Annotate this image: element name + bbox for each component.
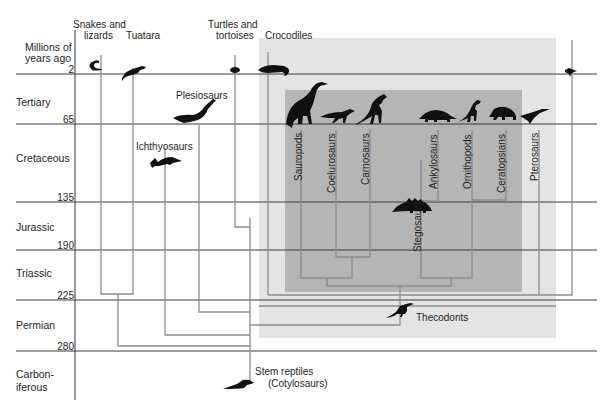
- tick-135: 135: [44, 192, 74, 203]
- bird-icon: [565, 68, 577, 77]
- axis-title-line2: years ago: [25, 53, 71, 64]
- turtle-icon: [230, 67, 240, 73]
- period-carboniferous-2: iferous: [16, 381, 48, 394]
- label-ornithopods: Ornithopods: [462, 135, 473, 189]
- period-jurassic: Jurassic: [16, 221, 55, 234]
- label-snakes-lizards-2: lizards: [84, 30, 113, 41]
- label-turtles-1: Turtles and: [208, 19, 258, 30]
- label-thecodonts: Thecodonts: [416, 312, 468, 323]
- label-ankylosaurs: Ankylosaurs: [428, 135, 439, 189]
- period-tertiary: Tertiary: [16, 96, 50, 109]
- label-coelurosaurs: Coelurosaurs: [326, 134, 337, 193]
- tick-2: 2: [44, 64, 74, 75]
- branch-lines: [101, 40, 572, 382]
- sauropod-icon: [286, 82, 328, 128]
- label-stem-reptiles-1: Stem reptiles: [255, 366, 313, 377]
- label-stegosaurs: Stegosaurs: [412, 201, 423, 252]
- label-carnosaurs: Carnosaurs: [360, 133, 371, 185]
- animal-silhouettes: [89, 60, 577, 389]
- ceratopsian-icon: [489, 107, 516, 120]
- label-ichthyosaurs: Ichthyosaurs: [136, 141, 193, 152]
- coelurosaur-icon: [320, 109, 355, 123]
- tick-65: 65: [44, 114, 74, 125]
- period-permian: Permian: [16, 319, 55, 332]
- plesiosaur-icon: [173, 99, 216, 123]
- snake-icon: [89, 60, 102, 70]
- ichthyosaur-icon: [150, 157, 182, 168]
- carnosaur-icon: [356, 94, 387, 125]
- tick-280: 280: [44, 341, 74, 352]
- ornithopod-icon: [458, 100, 481, 122]
- ankylosaur-icon: [419, 110, 457, 122]
- label-plesiosaurs: Plesiosaurs: [176, 90, 228, 101]
- label-crocodiles: Crocodiles: [265, 30, 312, 41]
- period-triassic: Triassic: [16, 267, 52, 280]
- stem-reptile-icon: [223, 380, 254, 389]
- period-cretaceous: Cretaceous: [16, 152, 70, 165]
- reptile-evolution-diagram: Millions of years ago 2 65 135 190 225 2…: [0, 0, 607, 407]
- tick-190: 190: [44, 240, 74, 251]
- label-pterosaurs: Pterosaurs: [529, 133, 540, 181]
- tree-lines: [0, 0, 607, 407]
- label-tuatara: Tuatara: [126, 30, 160, 41]
- label-stem-reptiles-2: (Cotylosaurs): [268, 378, 327, 389]
- label-sauropods: Sauropods: [293, 133, 304, 181]
- pterosaur-icon: [520, 109, 550, 124]
- label-turtles-2: tortoises: [216, 30, 254, 41]
- label-snakes-lizards-1: Snakes and: [73, 19, 126, 30]
- tick-225: 225: [44, 290, 74, 301]
- label-ceratopsians: Ceratopsians: [496, 134, 507, 193]
- period-carboniferous-1: Carbon-: [16, 368, 54, 381]
